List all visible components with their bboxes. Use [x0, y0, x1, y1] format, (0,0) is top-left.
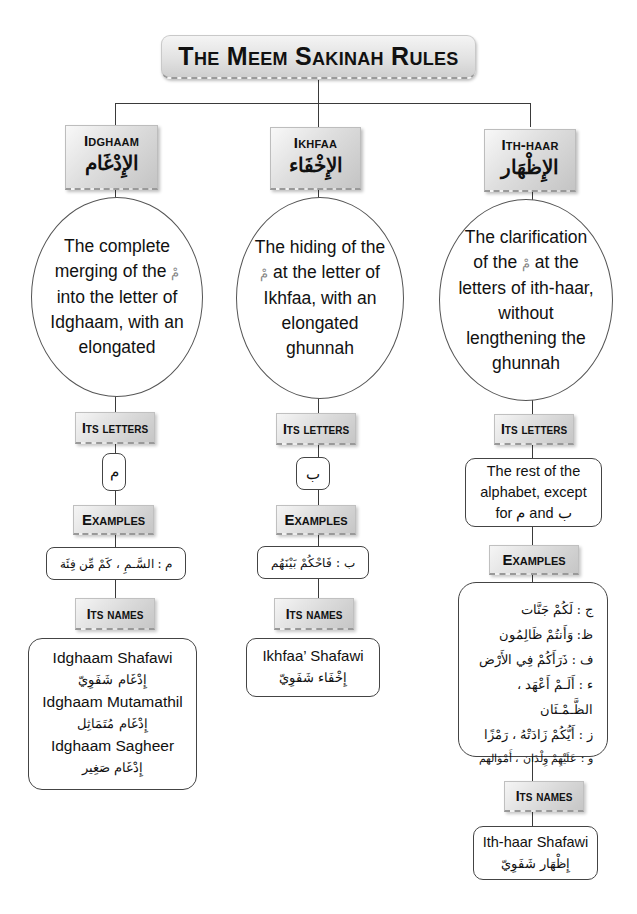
- examples-heading-ithhaar: Examples: [489, 545, 579, 575]
- page-title: The Meem Sakinah Rules: [161, 35, 476, 79]
- definition-ellipse-ikhfaa: The hiding of the مْ at the letter of Ik…: [236, 197, 404, 399]
- letters-heading-idghaam: Its letters: [75, 412, 155, 444]
- connector-title-down: [318, 80, 319, 103]
- rule-heading-ar: الإِظْهَار: [485, 155, 575, 179]
- letter-baa: ب: [306, 465, 320, 483]
- letters-heading-ithhaar: Its letters: [494, 414, 574, 445]
- letters-box-ikhfaa: ب: [296, 457, 330, 490]
- definition-ellipse-idghaam: The complete merging of the مْ into the …: [31, 197, 203, 397]
- names-heading-ithhaar: Its names: [504, 781, 584, 812]
- names-heading-ikhfaa: Its names: [274, 598, 354, 630]
- rule-heading-ar: الإِخْفَاء: [271, 153, 360, 177]
- connector-horizontal: [115, 103, 530, 104]
- rule-heading-ikhfaa: Ikhfaa الإِخْفَاء: [270, 127, 361, 190]
- letters-heading-ikhfaa: Its letters: [276, 413, 356, 445]
- name-ar: إِدْغَام مُتَمَاثِل: [29, 713, 196, 735]
- name-en: Idghaam Mutamathil: [29, 691, 196, 713]
- rule-heading-ithhaar: Ith-haar الإِظْهَار: [484, 129, 576, 192]
- name-en: Idghaam Sagheer: [29, 735, 196, 757]
- names-heading-idghaam: Its names: [75, 598, 155, 630]
- letter-meem: م: [110, 463, 119, 481]
- example-item: ج : لَكُمْ جَنَّات: [467, 597, 593, 622]
- names-box-idghaam: Idghaam Shafawi إِدْغَام شَفَوِيّ Idghaa…: [28, 638, 197, 790]
- letters-box-ithhaar: The rest of the alphabet, except for م a…: [465, 458, 602, 527]
- rule-heading-ar: الإِدْغَام: [66, 151, 157, 175]
- page-title-text: The Meem Sakinah Rules: [178, 42, 458, 71]
- examples-box-idghaam: م : السَّـمِ ، كَمْ مِّن فِئَة: [46, 547, 186, 580]
- connector-idghaam: [115, 103, 116, 125]
- definition-text: The clarification of the مْ at the lette…: [456, 225, 596, 376]
- examples-heading-ikhfaa: Examples: [276, 505, 356, 535]
- name-en: Idghaam Shafawi: [29, 647, 196, 669]
- letters-box-idghaam: م: [102, 453, 126, 491]
- letters-text: The rest of the alphabet, except for م a…: [474, 461, 593, 524]
- definition-text: The complete merging of the مْ into the …: [48, 234, 186, 360]
- names-box-ithhaar: Ith-haar Shafawi إِظْهَار شَفَوِيّ: [473, 826, 598, 880]
- rule-heading-en: Ith-haar: [485, 136, 575, 153]
- definition-text: The hiding of the مْ at the letter of Ik…: [253, 235, 387, 361]
- examples-heading-idghaam: Examples: [73, 505, 154, 535]
- name-en: Ith-haar Shafawi: [474, 832, 597, 853]
- name-ar: إِدْغَام صَغِير: [29, 757, 196, 779]
- examples-box-ithhaar: ج : لَكُمْ جَنَّات ظ: وَأَنتُمْ ظَالِمُو…: [458, 582, 608, 757]
- connector-ikhfaa: [318, 103, 319, 127]
- rule-heading-en: Idghaam: [66, 132, 157, 149]
- definition-ellipse-ithhaar: The clarification of the مْ at the lette…: [439, 199, 613, 401]
- name-en: Ikhfaa’ Shafawi: [247, 645, 379, 667]
- rule-heading-en: Ikhfaa: [271, 134, 360, 151]
- example-item: ز : أَيُّكُمْ زَادَتْهُ ، رَمْزًا: [467, 722, 593, 747]
- meem-sakinah-symbol: مْ: [522, 256, 530, 271]
- name-ar: إِدْغَام شَفَوِيّ: [29, 669, 196, 691]
- example-item: ب : فَاحْكُمْ بَيْنَهُم: [271, 556, 355, 570]
- example-item: م : السَّـمِ ، كَمْ مِّن فِئَة: [60, 557, 173, 571]
- examples-box-ikhfaa: ب : فَاحْكُمْ بَيْنَهُم: [257, 546, 369, 579]
- rule-heading-idghaam: Idghaam الإِدْغَام: [65, 125, 158, 190]
- example-item: و : عَلَيْهِمْ وِلْدَان ، أَمْوَالهم: [467, 747, 593, 771]
- names-box-ikhfaa: Ikhfaa’ Shafawi إِخْفَاء شَفَوِيّ: [246, 638, 380, 697]
- connector-ithhaar: [530, 103, 531, 127]
- meem-sakinah-symbol: مْ: [171, 265, 179, 280]
- example-item: ف : ذَرَأَكُمْ فِي الأَرْض: [467, 647, 593, 672]
- example-item: ء : أَلَـمْ أَعْهَد ، الظَّـمْـئَان: [467, 672, 593, 722]
- meem-sakinah-symbol: مْ: [260, 266, 268, 281]
- name-ar: إِظْهَار شَفَوِيّ: [474, 853, 597, 875]
- name-ar: إِخْفَاء شَفَوِيّ: [247, 667, 379, 689]
- example-item: ظ: وَأَنتُمْ ظَالِمُون: [467, 622, 593, 647]
